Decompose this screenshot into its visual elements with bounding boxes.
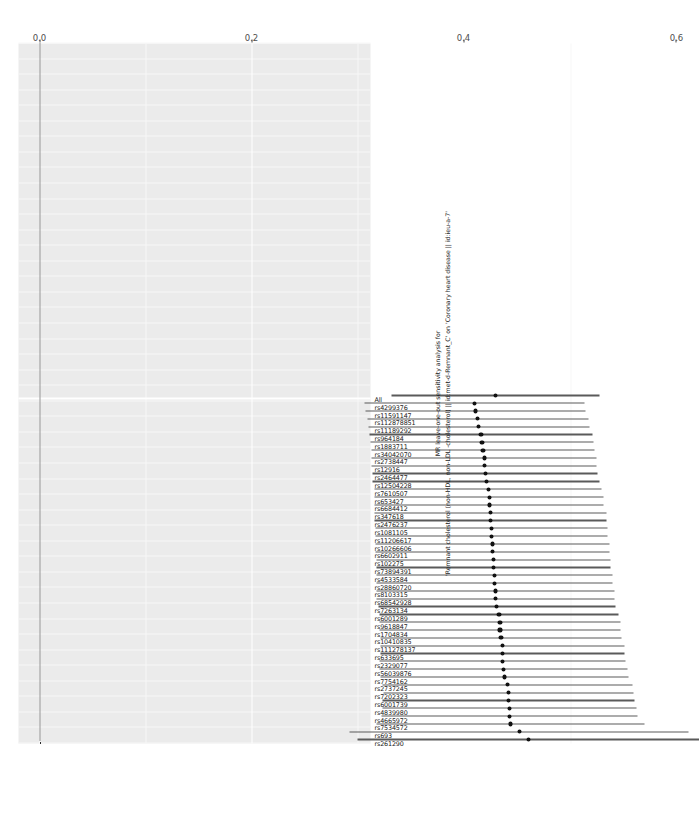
grid-line-minor <box>18 525 370 526</box>
point-estimate-marker <box>490 549 494 553</box>
grid-line-minor <box>18 276 370 277</box>
x-axis-tick-label: 0.0 <box>32 32 46 42</box>
grid-line-minor <box>18 338 370 339</box>
grid-line-minor <box>18 556 370 557</box>
point-estimate-marker <box>492 573 496 577</box>
snp-label: rs34042070 <box>374 450 411 458</box>
grid-line-minor <box>18 696 370 697</box>
point-estimate-marker <box>487 495 491 499</box>
snp-label: rs12504228 <box>374 481 411 489</box>
snp-label: rs11206617 <box>374 536 411 544</box>
point-estimate-marker <box>475 416 479 420</box>
snp-label: rs2464477 <box>374 473 407 481</box>
point-estimate-marker <box>498 635 502 639</box>
point-estimate-marker <box>472 401 476 405</box>
snp-label: rs4665972 <box>374 716 407 724</box>
snp-label: rs2329077 <box>374 661 407 669</box>
snp-label: rs7610507 <box>374 489 407 497</box>
grid-line-minor <box>18 245 370 246</box>
grid-line-major <box>676 43 677 743</box>
point-estimate-marker <box>507 706 511 710</box>
plot-panel <box>18 43 370 743</box>
grid-line-minor <box>18 120 370 121</box>
grid-line-minor <box>18 58 370 59</box>
point-estimate-marker <box>482 455 486 459</box>
grid-line-minor <box>145 43 146 743</box>
point-estimate-marker <box>483 471 487 475</box>
point-estimate-marker <box>478 432 482 436</box>
snp-label: rs7263134 <box>374 606 407 614</box>
grid-line-minor <box>18 478 370 479</box>
point-estimate-marker <box>479 440 483 444</box>
grid-line-minor <box>18 260 370 261</box>
grid-line-minor <box>18 462 370 463</box>
point-estimate-marker <box>500 659 504 663</box>
point-estimate-marker <box>501 667 505 671</box>
x-axis-tick-label: 0.4 <box>457 32 471 42</box>
snp-label: rs1081105 <box>374 528 407 536</box>
snp-label: rs102275 <box>374 559 403 567</box>
grid-line-major <box>251 43 252 743</box>
snp-label: rs12916 <box>374 465 399 473</box>
grid-line-minor <box>18 509 370 510</box>
grid-line-minor <box>18 540 370 541</box>
snp-label: rs9618847 <box>374 622 407 630</box>
null-reference-line <box>39 43 40 743</box>
caption-line-title: MR leave-one-out sensitivity analysis fo… <box>432 43 442 743</box>
point-estimate-marker <box>486 487 490 491</box>
point-estimate-marker <box>492 581 496 585</box>
grid-line-minor <box>18 229 370 230</box>
snp-label: rs261290 <box>374 739 403 747</box>
snp-label: rs11591147 <box>374 411 411 419</box>
grid-line-minor <box>18 742 370 743</box>
snp-label: rs6001739 <box>374 700 407 708</box>
point-estimate-marker <box>508 721 512 725</box>
grid-line-minor <box>18 307 370 308</box>
snp-label: All <box>374 395 381 403</box>
grid-line-minor <box>18 385 370 386</box>
point-estimate-marker <box>507 714 511 718</box>
grid-line-minor <box>18 42 370 43</box>
point-estimate-marker <box>505 682 509 686</box>
grid-line-minor <box>18 587 370 588</box>
snp-label: rs4299376 <box>374 403 407 411</box>
grid-line-minor <box>18 291 370 292</box>
point-estimate-marker <box>490 541 494 545</box>
snp-label: rs11189292 <box>374 426 411 434</box>
snp-label: rs347618 <box>374 512 403 520</box>
caption-line-subtitle: 'Remnant cholesterol (non-HDL, non-LDL -… <box>442 43 452 743</box>
grid-line-minor <box>18 680 370 681</box>
grid-line-minor <box>18 400 370 401</box>
grid-line-minor <box>18 105 370 106</box>
point-estimate-marker <box>488 518 492 522</box>
snp-label: rs111278137 <box>374 645 415 653</box>
snp-label: rs2738447 <box>374 458 407 466</box>
point-estimate-marker <box>493 393 497 397</box>
grid-line-minor <box>18 618 370 619</box>
grid-line-minor <box>18 354 370 355</box>
grid-line-minor <box>18 322 370 323</box>
snp-label: rs7754162 <box>374 677 407 685</box>
grid-line-minor <box>18 727 370 728</box>
point-estimate-marker <box>491 557 495 561</box>
point-estimate-marker <box>502 674 506 678</box>
point-estimate-marker <box>500 643 504 647</box>
grid-line-minor <box>18 136 370 137</box>
grid-line-minor <box>18 167 370 168</box>
grid-line-minor <box>18 369 370 370</box>
snp-label: rs2476237 <box>374 520 407 528</box>
snp-label: rs7202323 <box>374 692 407 700</box>
grid-line-minor <box>18 214 370 215</box>
snp-label: rs6602911 <box>374 551 407 559</box>
snp-label: rs1704834 <box>374 630 407 638</box>
grid-line-minor <box>18 74 370 75</box>
grid-line-minor <box>18 649 370 650</box>
snp-label: rs8103315 <box>374 590 407 598</box>
grid-line-minor <box>18 571 370 572</box>
point-estimate-marker <box>493 588 497 592</box>
point-estimate-marker <box>487 502 491 506</box>
x-axis-tick-label: 0.2 <box>245 32 259 42</box>
snp-label: rs56039876 <box>374 669 411 677</box>
